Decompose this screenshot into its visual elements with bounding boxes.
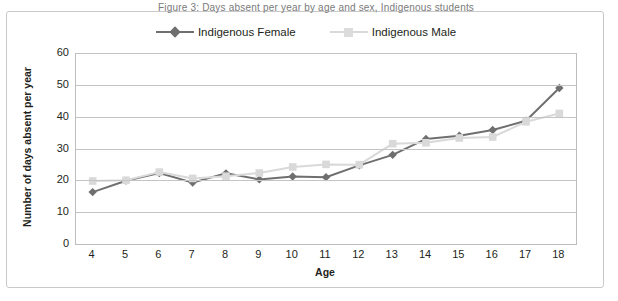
plot-wrapper: Number of days absent per year 010203040…: [7, 12, 605, 289]
y-axis-tick-labels: 0102030405060: [29, 12, 69, 289]
data-point-square: [456, 134, 464, 142]
data-point-square: [89, 177, 97, 185]
chart-figure-frame: Figure 3: Days absent per year by age an…: [6, 11, 604, 288]
data-point-square: [422, 139, 430, 147]
data-point-square: [322, 161, 330, 169]
x-tick-label: 9: [243, 248, 273, 260]
x-tick-label: 17: [510, 248, 540, 260]
data-point-diamond: [88, 188, 96, 196]
gridline: [76, 180, 576, 181]
gridline: [76, 149, 576, 150]
y-tick-label: 10: [29, 205, 69, 217]
gridline: [76, 212, 576, 213]
x-tick-label: 10: [277, 248, 307, 260]
plot-area: [75, 53, 577, 245]
data-point-square: [289, 163, 297, 171]
x-axis-title: Age: [75, 266, 575, 278]
x-tick-label: 8: [210, 248, 240, 260]
data-point-diamond: [388, 151, 396, 159]
data-point-square: [222, 172, 230, 180]
x-tick-label: 16: [477, 248, 507, 260]
x-tick-label: 13: [377, 248, 407, 260]
x-tick-label: 6: [143, 248, 173, 260]
x-axis-tick-labels: 456789101112131415161718: [75, 248, 575, 264]
x-tick-label: 15: [443, 248, 473, 260]
x-tick-label: 18: [543, 248, 573, 260]
y-axis-title: Number of days absent per year: [9, 0, 21, 52]
data-point-square: [189, 175, 197, 183]
gridline: [76, 53, 576, 54]
data-point-diamond: [488, 126, 496, 134]
data-point-square: [356, 161, 364, 169]
y-tick-label: 30: [29, 142, 69, 154]
x-tick-label: 11: [310, 248, 340, 260]
y-tick-label: 0: [29, 237, 69, 249]
data-point-square: [522, 118, 530, 126]
y-tick-label: 60: [29, 46, 69, 58]
gridline: [76, 85, 576, 86]
x-tick-label: 14: [410, 248, 440, 260]
data-point-square: [489, 133, 497, 141]
x-tick-label: 7: [177, 248, 207, 260]
y-tick-label: 20: [29, 173, 69, 185]
data-point-square: [389, 140, 397, 148]
gridline: [76, 117, 576, 118]
x-tick-label: 4: [77, 248, 107, 260]
x-tick-label: 5: [110, 248, 140, 260]
data-point-square: [156, 168, 164, 176]
data-point-square: [256, 169, 264, 177]
y-tick-label: 40: [29, 110, 69, 122]
y-tick-label: 50: [29, 78, 69, 90]
x-tick-label: 12: [343, 248, 373, 260]
